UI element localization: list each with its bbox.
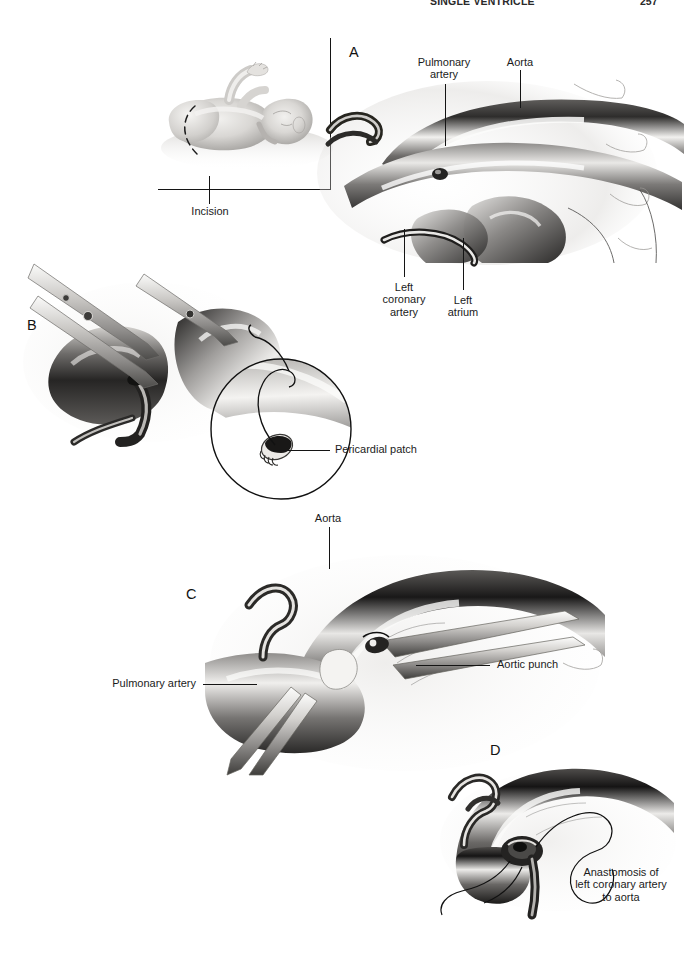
label-aortic-punch: Aortic punch [497, 658, 607, 670]
aorta-c-leader-line [329, 527, 330, 569]
pericardial-patch-inset-illustration [197, 325, 447, 505]
aortic-punch-leader-line [416, 665, 490, 666]
label-aorta-a: Aorta [485, 56, 555, 68]
label-left-atrium: Left atrium [428, 294, 498, 319]
panel-letter-c: C [186, 586, 196, 602]
pulmonary-artery-c-leader-line [203, 684, 257, 685]
inset-frame-bottom-rule [158, 189, 330, 190]
aorta-a-leader-line [520, 70, 521, 108]
label-aorta-c: Aorta [298, 512, 358, 524]
infant-inset-illustration [155, 62, 345, 192]
pulmonary-artery-a-leader-line [445, 84, 446, 146]
left-atrium-leader-line [463, 238, 464, 290]
pericardial-patch-leader-line [272, 450, 330, 451]
figure-page: SINGLE VENTRICLE 257 [0, 0, 685, 969]
panel-a-illustration [322, 78, 685, 263]
label-pulmonary-artery-c: Pulmonary artery [92, 677, 196, 689]
label-pericardial-patch: Pericardial patch [335, 443, 465, 455]
incision-leader-line [209, 176, 210, 204]
page-number: 257 [640, 0, 658, 7]
running-title: SINGLE VENTRICLE [430, 0, 535, 7]
panel-letter-a: A [349, 44, 359, 60]
label-anastomosis: Anastomosis of left coronary artery to a… [557, 866, 685, 903]
page-header: SINGLE VENTRICLE 257 [0, 0, 685, 11]
label-pulmonary-artery-a: Pulmonary artery [404, 56, 484, 81]
left-coronary-artery-leader-line [404, 229, 405, 277]
label-incision: Incision [174, 205, 246, 217]
